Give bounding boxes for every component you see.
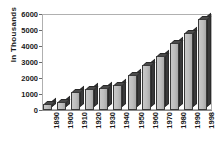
bar-side-face [151, 59, 155, 107]
x-tick-label: 1920 [94, 112, 103, 142]
y-tick-label: 2000 [21, 75, 38, 82]
bar-side-face [207, 13, 211, 107]
x-axis-baseline [42, 110, 212, 111]
bar [57, 102, 66, 110]
x-tick-label: 1960 [151, 112, 160, 142]
bar-front-face [198, 19, 207, 110]
bar-series [42, 14, 212, 110]
y-tick-mark [39, 14, 42, 15]
bar [184, 33, 193, 110]
y-tick-mark [39, 78, 42, 79]
x-axis-tick-labels: 1890190019101920193019401950196019701980… [42, 112, 212, 146]
bar-front-face [43, 104, 52, 110]
bar-chart: In Thousands 0100020003000400050006000 1… [0, 0, 222, 148]
y-tick-label: 4000 [21, 43, 38, 50]
bar-front-face [170, 43, 179, 110]
bar-front-face [71, 92, 80, 110]
x-tick-label: 1900 [66, 112, 75, 142]
bar-front-face [184, 33, 193, 110]
bar [71, 92, 80, 110]
y-tick-label: 5000 [21, 27, 38, 34]
bar-front-face [142, 65, 151, 110]
y-tick-label: 6000 [21, 11, 38, 18]
y-tick-mark [39, 46, 42, 47]
y-tick-label: 3000 [21, 59, 38, 66]
bar-side-face [193, 27, 197, 107]
y-axis-tick-labels: 0100020003000400050006000 [14, 14, 38, 110]
y-tick-label: 1000 [21, 91, 38, 98]
y-tick-mark [39, 110, 42, 111]
x-tick-label: 1980 [179, 112, 188, 142]
bar [128, 75, 137, 110]
y-tick-mark [39, 62, 42, 63]
bar-front-face [128, 75, 137, 110]
x-tick-label: 1998 [207, 112, 216, 142]
y-tick-mark [39, 30, 42, 31]
bar [142, 65, 151, 110]
x-tick-label: 1910 [80, 112, 89, 142]
bar [85, 89, 94, 110]
bar [43, 104, 52, 110]
x-tick-label: 1950 [137, 112, 146, 142]
bar [156, 56, 165, 110]
x-tick-label: 1990 [193, 112, 202, 142]
bar-front-face [85, 89, 94, 110]
x-tick-label: 1890 [52, 112, 61, 142]
bar-front-face [57, 102, 66, 110]
x-tick-label: 1940 [122, 112, 131, 142]
bar-side-face [179, 37, 183, 107]
bar-side-face [165, 49, 169, 107]
bar [99, 88, 108, 110]
x-tick-label: 1970 [165, 112, 174, 142]
bar [113, 85, 122, 110]
bar-front-face [156, 56, 165, 110]
bar-front-face [99, 88, 108, 110]
bar [170, 43, 179, 110]
bar [198, 19, 207, 110]
y-tick-mark [39, 94, 42, 95]
bar-front-face [113, 85, 122, 110]
x-tick-label: 1930 [108, 112, 117, 142]
y-tick-label: 0 [34, 107, 38, 114]
